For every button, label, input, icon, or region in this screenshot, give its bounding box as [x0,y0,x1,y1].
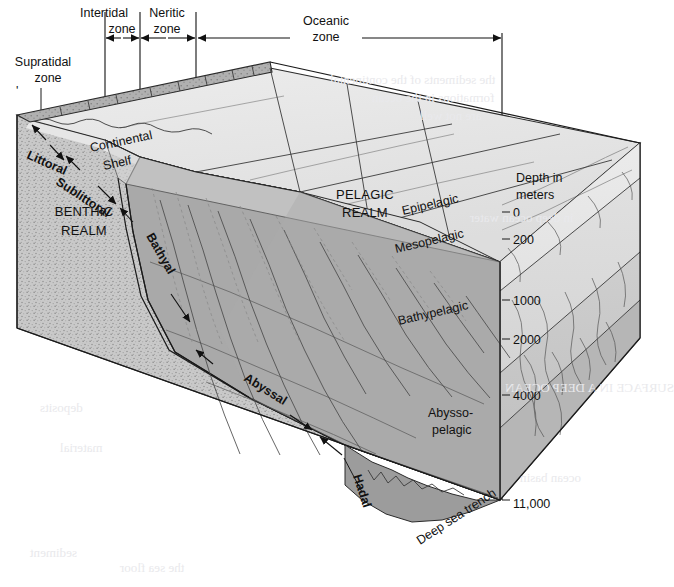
depth-tick-2000: 2000 [513,333,541,347]
label-pelagic-realm-line2: REALM [342,205,388,220]
label-abyssopelagic-line2: pelagic [432,423,472,437]
label-depth-caption-line1: Depth in [516,171,563,185]
depth-tick-11000: 11,000 [513,497,550,511]
depth-tick-4000: 4000 [513,389,541,403]
label-oceanic-zone-line1: Oceanic [303,14,349,28]
depth-tick-200: 200 [513,233,534,247]
label-pelagic-realm-line1: PELAGIC [336,187,394,202]
label-supratidal-zone-line1: Supratidal [15,55,71,69]
label-neritic-zone-line2: zone [153,22,180,36]
label-intertidal-zone-line2: zone [108,22,135,36]
label-depth-caption-line2: meters [516,188,554,202]
label-supratidal-zone-line2: zone [34,71,61,85]
label-oceanic-zone-line2: zone [312,30,339,44]
label-benthic-realm-line2: REALM [61,223,107,238]
stray-mark: ' [16,84,18,98]
label-intertidal-zone-line1: Intertidal [80,6,128,20]
depth-tick-1000: 1000 [513,294,541,308]
label-neritic-zone-line1: Neritic [149,6,184,20]
label-abyssopelagic-line1: Abysso- [428,406,473,420]
depth-tick-0: 0 [513,206,520,220]
